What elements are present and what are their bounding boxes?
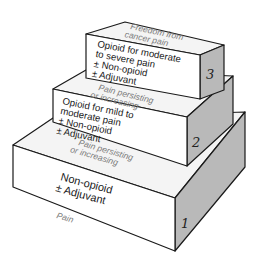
step-1-number: 1 [181,216,189,231]
analgesic-ladder-diagram: Freedom from cancer pain Opioid for mode… [0,0,261,266]
step-3-number: 3 [206,67,214,82]
step-2-number: 2 [191,135,200,150]
pain-entry-label: Pain [55,210,75,224]
